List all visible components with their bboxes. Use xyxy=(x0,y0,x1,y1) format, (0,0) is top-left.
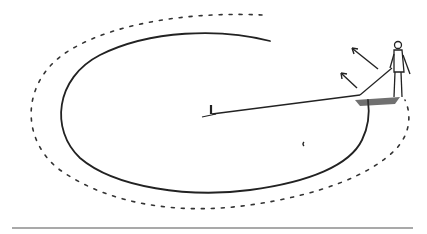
center-stake xyxy=(202,105,216,117)
person xyxy=(390,42,410,98)
illustration xyxy=(0,0,427,234)
outer-dotted-path xyxy=(31,14,409,208)
inner-circle-path xyxy=(61,33,369,193)
direction-arrows xyxy=(341,48,378,88)
tether-rope xyxy=(212,95,360,114)
